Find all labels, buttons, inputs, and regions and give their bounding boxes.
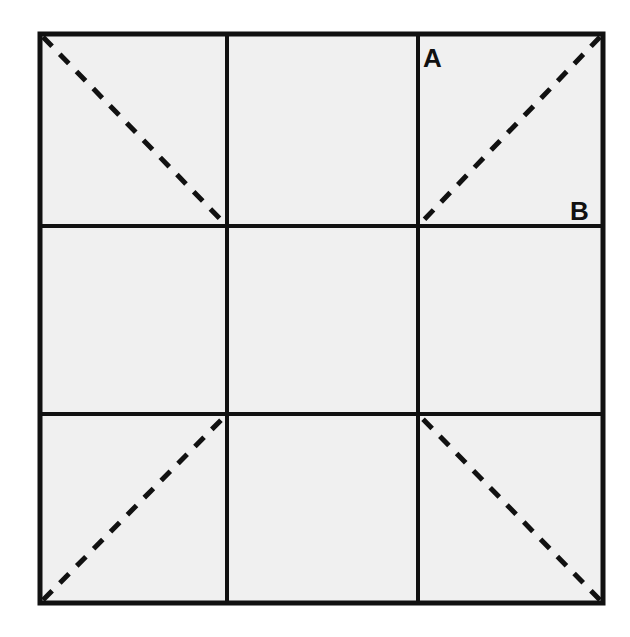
label-b: B (570, 196, 589, 226)
outer-square (40, 34, 603, 603)
label-a: A (423, 43, 442, 73)
grid-diagram: A B (0, 0, 630, 637)
